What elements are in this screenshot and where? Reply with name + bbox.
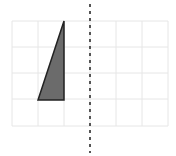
reflection-diagram [0,0,176,156]
right-triangle-shape [38,21,64,100]
